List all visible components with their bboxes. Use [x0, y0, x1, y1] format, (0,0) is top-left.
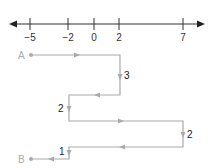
- number-line: −5 −2 0 2 7: [9, 18, 205, 43]
- tick-label: 7: [180, 32, 186, 43]
- tick-label: −5: [24, 32, 36, 43]
- end-point: [29, 157, 33, 161]
- tick-label: 0: [91, 32, 97, 43]
- tick-label: −2: [62, 32, 74, 43]
- step-label: 1: [59, 146, 65, 157]
- left-arrow-icon: [9, 21, 17, 28]
- start-point: [29, 53, 33, 57]
- right-arrow-icon: [197, 21, 205, 28]
- movement-path: [31, 53, 186, 162]
- diagram: −5 −2 0 2 7 A B 3 2 2 1: [0, 0, 213, 168]
- step-label: 2: [187, 129, 193, 140]
- tick-label: 2: [116, 32, 122, 43]
- step-label: 3: [124, 70, 130, 81]
- step-label: 2: [58, 103, 64, 114]
- end-label: B: [18, 154, 25, 165]
- start-label: A: [18, 50, 25, 61]
